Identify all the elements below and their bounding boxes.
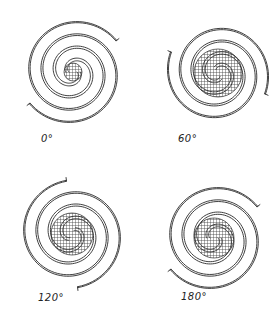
galaxy-panel-0: [27, 22, 119, 123]
galaxy-rotation-diagram: 0° 60° 120° 180°: [0, 0, 279, 322]
panel-label-120: 120°: [38, 292, 64, 303]
hatched-core: [64, 63, 82, 81]
panel-label-60: 60°: [178, 133, 197, 144]
galaxy-panel-1: [167, 28, 268, 117]
arm-tip: [168, 51, 172, 53]
arm-tip: [265, 94, 269, 96]
galaxy-panel-2: [24, 177, 121, 291]
diagram-svg: [0, 0, 279, 322]
galaxy-panel-3: [168, 188, 260, 289]
panel-label-180: 180°: [181, 291, 207, 302]
panel-label-0: 0°: [41, 133, 53, 144]
